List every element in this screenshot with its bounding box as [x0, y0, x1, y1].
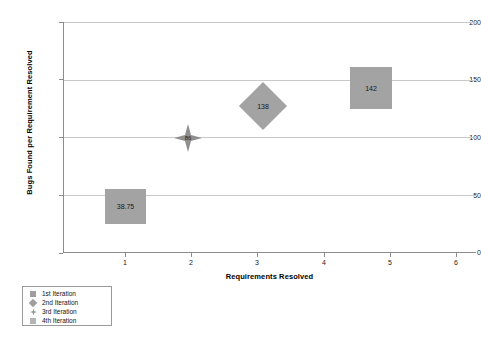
legend-label: 4th Iteration: [42, 317, 76, 325]
legend-item-2nd-iteration[interactable]: 2nd Iteration: [27, 299, 111, 308]
data-point-label: 86: [185, 135, 192, 141]
x-tick-mark-6: [456, 253, 457, 257]
y-tick-mark-0: [59, 253, 63, 254]
legend-label: 2nd Iteration: [42, 299, 78, 307]
square-icon: [27, 290, 39, 298]
x-tick-5: 5: [380, 259, 400, 267]
diamond-icon: [27, 299, 39, 307]
x-tick-mark-4: [324, 253, 325, 257]
x-axis-title: Requirements Resolved: [63, 272, 476, 281]
scatter-chart: Bugs Found per Requirement Resolved 200 …: [0, 0, 481, 342]
data-point-label: 138: [257, 103, 269, 110]
legend-item-3rd-iteration[interactable]: 3rd Iteration: [27, 308, 111, 317]
x-tick-1: 1: [115, 259, 135, 267]
legend: 1st Iteration 2nd Iteration 3rd Iteratio…: [22, 286, 112, 326]
gridline-200: [64, 22, 477, 23]
x-tick-6: 6: [446, 259, 466, 267]
legend-label: 3rd Iteration: [42, 308, 77, 316]
data-point-1st-iteration[interactable]: 38.75: [105, 189, 146, 224]
data-point-2nd-iteration[interactable]: 138: [246, 89, 280, 123]
legend-label: 1st Iteration: [42, 290, 76, 298]
data-point-3rd-iteration[interactable]: 86: [174, 124, 202, 152]
data-point-label: 142: [365, 85, 377, 92]
square-light-icon: [27, 317, 39, 325]
star-icon: [27, 308, 39, 316]
x-tick-2: 2: [181, 259, 201, 267]
data-point-label: 38.75: [117, 203, 135, 210]
data-point-4th-iteration[interactable]: 142: [350, 67, 392, 109]
x-tick-mark-3: [257, 253, 258, 257]
x-tick-mark-1: [125, 253, 126, 257]
legend-item-4th-iteration[interactable]: 4th Iteration: [27, 317, 111, 326]
y-axis-title: Bugs Found per Requirement Resolved: [25, 23, 34, 223]
plot-area: 38.75 86 138 142: [63, 22, 476, 253]
x-tick-mark-5: [390, 253, 391, 257]
x-tick-3: 3: [247, 259, 267, 267]
x-tick-4: 4: [314, 259, 334, 267]
legend-item-1st-iteration[interactable]: 1st Iteration: [27, 290, 111, 299]
x-tick-mark-2: [191, 253, 192, 257]
gridline-150: [64, 80, 477, 81]
gridline-100: [64, 137, 477, 138]
